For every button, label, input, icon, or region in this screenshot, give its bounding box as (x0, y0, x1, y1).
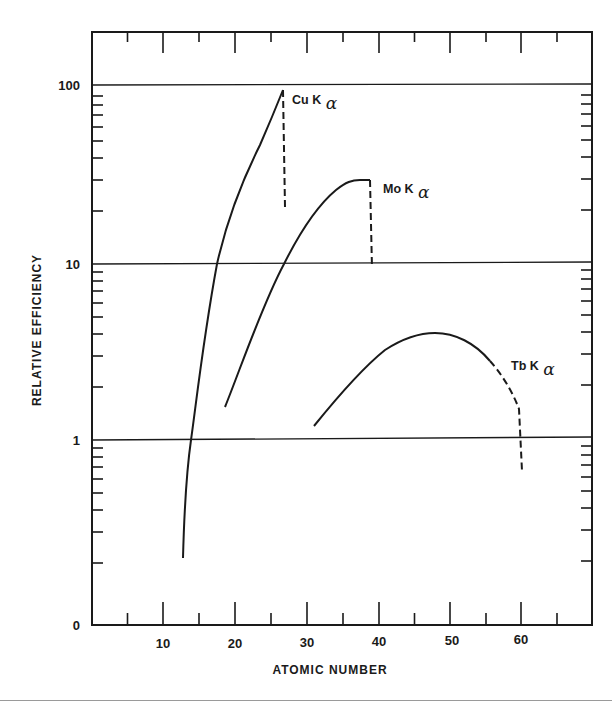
y-tick-label-1: 1 (73, 433, 80, 448)
gridline-100 (92, 84, 592, 85)
plot-frame (92, 32, 592, 625)
y-axis-title: RELATIVE EFFICIENCY (30, 254, 44, 406)
x-tick-label-40: 40 (372, 634, 386, 649)
x-tick-label-30: 30 (300, 635, 314, 650)
mo-solid-curve (225, 180, 370, 407)
cu-dashed-drop (283, 90, 285, 207)
cu-label: Cu K α (292, 90, 338, 113)
cu-solid-curve (183, 90, 283, 558)
x-axis-ticks-bottom (128, 602, 558, 625)
mo-dashed-drop (370, 180, 372, 268)
y-tick-label-100: 100 (58, 78, 80, 93)
x-tick-label-20: 20 (228, 636, 242, 651)
y-tick-label-10: 10 (66, 257, 80, 272)
series-mo-kalpha (225, 180, 372, 407)
tb-label: Tb K α (511, 356, 555, 379)
mo-label: Mo K α (383, 179, 430, 202)
x-tick-label-60: 60 (514, 632, 528, 647)
gridline-10 (92, 262, 592, 264)
series-tb-kalpha (314, 333, 522, 471)
tb-solid-curve (314, 333, 490, 426)
series-cu-kalpha (183, 90, 285, 558)
x-axis-title: ATOMIC NUMBER (272, 663, 387, 677)
gridlines (92, 84, 592, 440)
page-rule (0, 700, 612, 701)
efficiency-chart: 100 10 1 0 10 20 30 40 50 60 ATOMIC NUMB… (0, 0, 612, 708)
x-axis-ticks-top (128, 32, 558, 53)
y-axis-ticks-right (581, 95, 592, 561)
tb-dashed-tail (490, 361, 522, 471)
gridline-1 (92, 437, 592, 440)
x-tick-label-50: 50 (445, 633, 459, 648)
x-tick-label-10: 10 (156, 636, 170, 651)
y-tick-label-0: 0 (73, 618, 80, 633)
y-axis-ticks-left (92, 96, 103, 563)
